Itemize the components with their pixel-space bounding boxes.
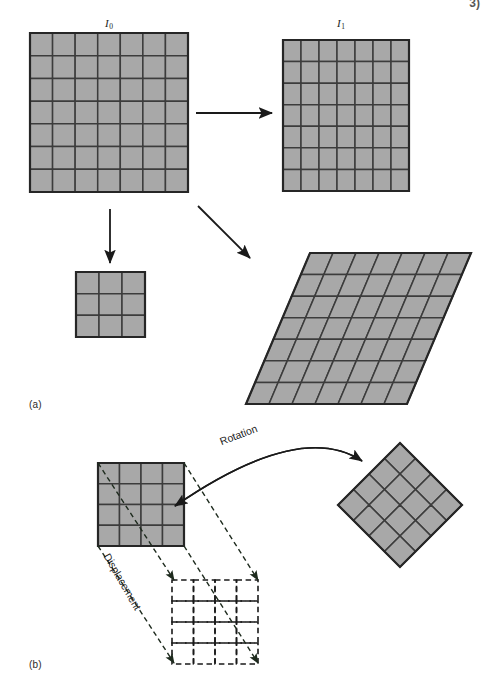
rotation-arrow bbox=[175, 448, 362, 506]
rotated-block-grid bbox=[338, 443, 462, 567]
reference-block-grid bbox=[98, 463, 184, 546]
image-label-i0: I0 bbox=[105, 17, 112, 29]
page-corner-mark: 3) bbox=[469, 0, 480, 10]
sheared-grid bbox=[246, 253, 471, 404]
image-label-i1: I1 bbox=[337, 17, 344, 29]
source-image-grid bbox=[30, 33, 188, 192]
figure-canvas: I0 I1 Rotation Displacement (a) (b) 3) bbox=[0, 0, 486, 694]
panel-label-b: (b) bbox=[29, 659, 42, 670]
panel-label-a: (a) bbox=[29, 399, 42, 410]
target-image-grid bbox=[283, 40, 409, 191]
displaced-block-grid bbox=[172, 580, 258, 664]
scaled-down-grid bbox=[76, 272, 145, 337]
figure-svg bbox=[0, 0, 486, 694]
